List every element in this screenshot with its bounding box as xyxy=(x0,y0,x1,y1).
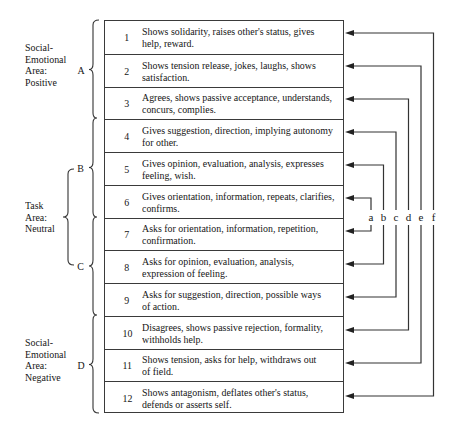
arrowhead-icon xyxy=(345,360,354,366)
arrowhead-icon xyxy=(345,129,354,135)
arrowhead-icon xyxy=(345,327,354,333)
brace-abcd xyxy=(89,20,99,413)
arrowhead-icon xyxy=(345,63,354,69)
connector-label-d: d xyxy=(406,211,412,223)
connector-b: b xyxy=(345,162,387,267)
arrowhead-icon xyxy=(345,393,354,399)
arrowhead-icon xyxy=(345,261,354,267)
connector-label-e: e xyxy=(419,211,424,223)
brace-task-area xyxy=(63,169,74,265)
arrowhead-icon xyxy=(345,195,354,201)
arrowhead-icon xyxy=(345,162,354,168)
arrowhead-icon xyxy=(345,228,354,234)
diagram-lines: f e d c b a xyxy=(0,0,460,433)
connector-label-f: f xyxy=(432,211,436,223)
arrowhead-icon xyxy=(345,294,354,300)
connector-label-c: c xyxy=(394,211,399,223)
arrowhead-icon xyxy=(345,96,354,102)
arrowhead-icon xyxy=(345,30,354,36)
connector-label-a: a xyxy=(369,211,374,223)
connector-a: a xyxy=(345,195,374,234)
connector-label-b: b xyxy=(381,211,387,223)
